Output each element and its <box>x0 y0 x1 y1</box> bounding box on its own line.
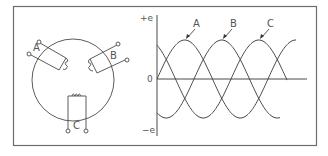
y-tick-minus-e: −e <box>142 125 156 135</box>
terminal-a2 <box>27 52 31 56</box>
terminal-c1 <box>66 129 70 133</box>
coil-b <box>88 42 129 73</box>
callout-label-b: B <box>230 18 237 29</box>
y-tick-zero: 0 <box>147 74 153 84</box>
coil-c-label: C <box>73 120 80 131</box>
y-tick-plus-e: +e <box>140 13 154 23</box>
waveform-chart: +e 0 −e A B C <box>140 13 307 136</box>
stator-circle <box>32 39 114 121</box>
coil-b-label: B <box>110 50 117 61</box>
callout-label-a: A <box>193 18 200 29</box>
coil-a-label: A <box>33 42 40 53</box>
terminal-c2 <box>84 129 88 133</box>
callout-label-c: C <box>267 18 274 29</box>
three-phase-figure: A B C +e 0 −e A B C <box>0 0 328 156</box>
terminal-b2 <box>125 58 129 62</box>
terminal-b1 <box>116 42 120 46</box>
